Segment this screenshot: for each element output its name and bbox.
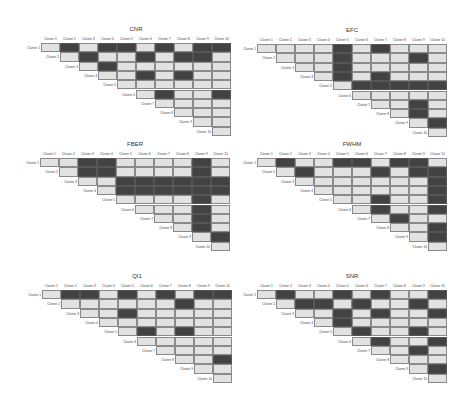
matrix-cell-significant bbox=[333, 290, 352, 299]
row-label: Cluster 6 bbox=[117, 340, 136, 344]
matrix-cell bbox=[211, 167, 230, 176]
row-label: Cluster 10 bbox=[192, 130, 211, 134]
matrix-cell-significant bbox=[276, 158, 295, 167]
matrix-cell bbox=[333, 327, 352, 336]
row-label: Cluster 2 bbox=[256, 56, 275, 60]
matrix-cell bbox=[257, 158, 276, 167]
matrix-cell bbox=[428, 242, 447, 251]
row-label: Cluster 5 bbox=[313, 84, 332, 88]
matrix-cell bbox=[428, 318, 447, 327]
matrix-cell-significant bbox=[428, 309, 447, 318]
matrix-cell bbox=[390, 109, 409, 118]
matrix-cell-significant bbox=[155, 90, 174, 99]
matrix-cell bbox=[155, 80, 174, 89]
matrix-cell bbox=[390, 63, 409, 72]
matrix-cell bbox=[173, 205, 192, 214]
row-label: Cluster 8 bbox=[153, 226, 172, 230]
matrix-cell bbox=[174, 62, 193, 71]
matrix-cell bbox=[428, 72, 447, 81]
matrix-cell bbox=[193, 62, 212, 71]
matrix-cell bbox=[174, 108, 193, 117]
row-label: Cluster 3 bbox=[275, 66, 294, 70]
matrix-cell bbox=[194, 355, 213, 364]
row-label: Cluster 5 bbox=[313, 330, 332, 334]
matrix-cell bbox=[409, 223, 428, 232]
matrix-cell bbox=[193, 108, 212, 117]
column-header: Cluster 9 bbox=[192, 152, 211, 156]
row-label: Cluster 3 bbox=[58, 180, 77, 184]
matrix-cell bbox=[97, 177, 116, 186]
matrix-cell bbox=[390, 327, 409, 336]
column-header: Cluster 2 bbox=[59, 152, 78, 156]
matrix-cell-significant bbox=[97, 167, 116, 176]
matrix-cell-significant bbox=[175, 327, 194, 336]
column-header: Cluster 6 bbox=[352, 38, 371, 42]
matrix-cell-significant bbox=[211, 177, 230, 186]
matrix-cell-significant bbox=[409, 158, 428, 167]
column-header: Cluster 6 bbox=[137, 284, 156, 288]
matrix-cell bbox=[314, 63, 333, 72]
column-header: Cluster 7 bbox=[371, 152, 390, 156]
matrix-cell bbox=[154, 195, 173, 204]
panel-title: SNR bbox=[257, 273, 447, 279]
matrix-cell-significant bbox=[156, 290, 175, 299]
matrix-cell-significant bbox=[428, 290, 447, 299]
matrix-cell bbox=[390, 290, 409, 299]
matrix-cell bbox=[194, 309, 213, 318]
matrix-cell bbox=[295, 177, 314, 186]
matrix-cell-significant bbox=[194, 290, 213, 299]
matrix-cell bbox=[409, 118, 428, 127]
panel-title: CNR bbox=[41, 26, 231, 32]
matrix-cell-significant bbox=[211, 186, 230, 195]
matrix-cell bbox=[352, 186, 371, 195]
column-header: Cluster 9 bbox=[409, 152, 428, 156]
matrix-cell bbox=[156, 346, 175, 355]
matrix-cell bbox=[156, 337, 175, 346]
column-header: Cluster 8 bbox=[390, 152, 409, 156]
matrix-cell-significant bbox=[192, 177, 211, 186]
row-label: Cluster 9 bbox=[389, 121, 408, 125]
matrix-cell bbox=[137, 299, 156, 308]
matrix-cell bbox=[428, 63, 447, 72]
matrix-cell bbox=[137, 309, 156, 318]
matrix-cell bbox=[211, 195, 230, 204]
row-label: Cluster 6 bbox=[332, 94, 351, 98]
matrix-cell bbox=[213, 309, 232, 318]
column-header: Cluster 1 bbox=[41, 37, 60, 41]
matrix-cell bbox=[194, 364, 213, 373]
matrix-cell bbox=[428, 299, 447, 308]
column-header: Cluster 5 bbox=[333, 152, 352, 156]
matrix-cell bbox=[175, 355, 194, 364]
row-label: Cluster 7 bbox=[135, 102, 154, 106]
matrix-cell bbox=[173, 167, 192, 176]
matrix-cell bbox=[390, 205, 409, 214]
matrix-cell bbox=[409, 318, 428, 327]
row-label: Cluster 8 bbox=[370, 112, 389, 116]
matrix-cell-significant bbox=[78, 158, 97, 167]
matrix-cell bbox=[371, 177, 390, 186]
matrix-cell bbox=[333, 186, 352, 195]
matrix-cell-significant bbox=[352, 81, 371, 90]
matrix-cell bbox=[212, 99, 231, 108]
matrix-cell bbox=[40, 158, 59, 167]
matrix-cell-significant bbox=[79, 52, 98, 61]
panel-title: EFC bbox=[257, 27, 447, 33]
row-label: Cluster 4 bbox=[79, 321, 98, 325]
matrix-cell-significant bbox=[371, 81, 390, 90]
row-label: Cluster 8 bbox=[370, 226, 389, 230]
row-label: Cluster 10 bbox=[408, 377, 427, 381]
matrix-cell bbox=[213, 374, 232, 383]
column-header: Cluster 9 bbox=[409, 284, 428, 288]
matrix-cell-significant bbox=[193, 43, 212, 52]
matrix-cell-significant bbox=[118, 290, 137, 299]
column-header: Cluster 5 bbox=[117, 37, 136, 41]
matrix-cell bbox=[352, 53, 371, 62]
row-label: Cluster 5 bbox=[313, 198, 332, 202]
matrix-cell bbox=[174, 43, 193, 52]
column-header: Cluster 9 bbox=[409, 38, 428, 42]
matrix-cell bbox=[428, 109, 447, 118]
column-header: Cluster 3 bbox=[78, 152, 97, 156]
matrix-cell bbox=[156, 309, 175, 318]
matrix-cell-significant bbox=[192, 186, 211, 195]
matrix-cell-significant bbox=[78, 167, 97, 176]
